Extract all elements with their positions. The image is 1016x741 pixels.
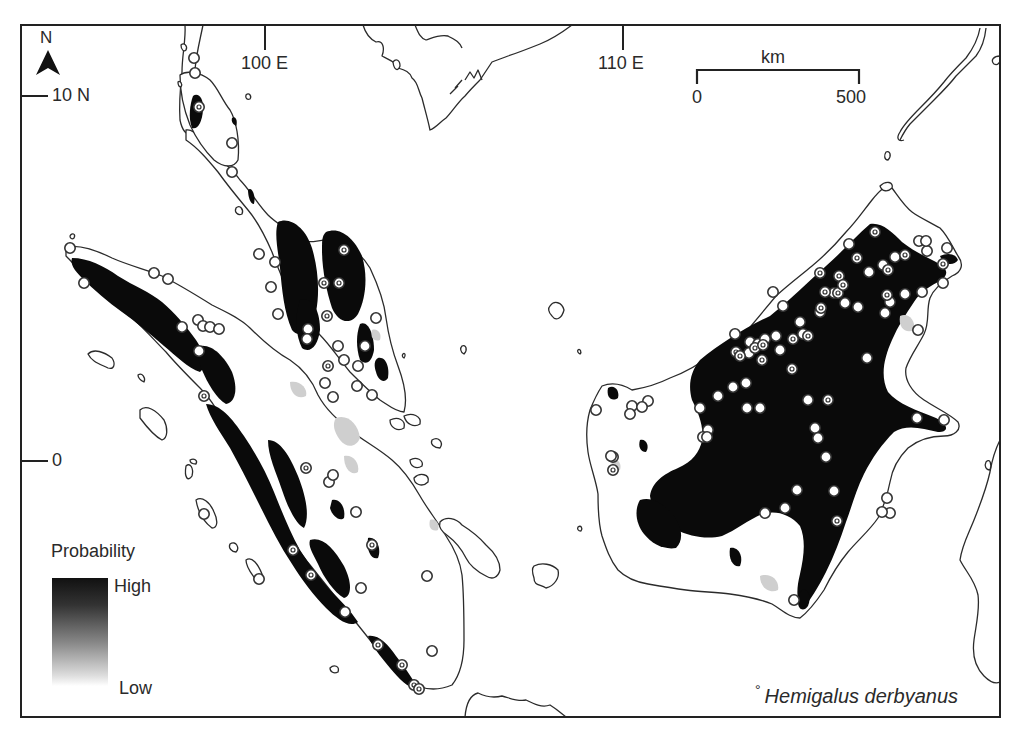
occurrence-point-ringed — [820, 287, 830, 297]
occurrence-point-ringed — [838, 280, 848, 290]
occurrence-point-ringed — [788, 334, 798, 344]
island-sipora — [229, 543, 237, 552]
occurrence-point — [921, 236, 931, 246]
occurrence-point — [254, 574, 264, 584]
occurrence-point — [821, 452, 831, 462]
distribution-map — [0, 0, 1016, 741]
island-banggi — [880, 182, 892, 190]
occurrence-point-ringed — [367, 540, 377, 550]
island-simeulue — [88, 351, 114, 368]
occurrence-point-ringed — [832, 516, 842, 526]
scale-bar-unit: km — [761, 47, 785, 68]
coastline-indochina — [363, 25, 572, 130]
occurrence-point — [351, 507, 361, 517]
occurrence-point — [65, 243, 75, 253]
occurrence-point — [778, 301, 788, 311]
occurrence-point — [913, 325, 923, 335]
coastline-mindanao-edge — [992, 56, 1000, 65]
coastline-sulawesi — [960, 440, 1000, 683]
occurrence-marker-icon: ° — [755, 682, 761, 698]
latitude-label-0: 0 — [52, 450, 62, 471]
occurrence-point — [741, 378, 751, 388]
island-w-thai-1 — [181, 44, 187, 51]
occurrence-point — [625, 409, 635, 419]
occurrence-point — [813, 433, 823, 443]
coastline-gulf-thailand — [415, 25, 462, 48]
island-w-thai-2 — [178, 81, 182, 87]
occurrence-point — [939, 415, 949, 425]
occurrence-point — [864, 267, 874, 277]
island-small-sea — [578, 526, 582, 531]
occurrence-point — [810, 423, 820, 433]
occurrence-point — [254, 249, 264, 259]
occurrence-point — [340, 607, 350, 617]
occurrence-point — [214, 324, 224, 334]
island-riau-1 — [390, 418, 404, 429]
scale-bar — [697, 69, 859, 84]
occurrence-point — [900, 289, 910, 299]
occurrence-point — [227, 167, 237, 177]
occurrence-point — [333, 341, 343, 351]
island-small-w1 — [138, 374, 145, 382]
island-riau-2 — [404, 414, 420, 425]
occurrence-point — [877, 507, 887, 517]
occurrence-point — [302, 334, 312, 344]
occurrence-point — [427, 646, 437, 656]
island-anambas — [461, 346, 466, 354]
occurrence-point-ringed — [608, 465, 618, 475]
occurrence-point — [771, 331, 781, 341]
occurrence-point — [755, 403, 765, 413]
occurrence-point — [328, 392, 338, 402]
occurrence-point — [270, 257, 280, 267]
occurrence-point-ringed — [288, 545, 298, 555]
occurrence-point-ringed — [319, 278, 329, 288]
occurrence-point — [273, 309, 283, 319]
occurrence-point-ringed — [870, 227, 880, 237]
occurrence-point-ringed — [735, 351, 745, 361]
occurrence-point — [320, 378, 330, 388]
occurrence-point — [862, 353, 872, 363]
island-tiny-2 — [578, 349, 581, 354]
occurrence-point-ringed — [323, 361, 333, 371]
occurrence-point-ringed — [194, 102, 204, 112]
occurrence-point — [728, 382, 738, 392]
occurrence-point — [768, 287, 778, 297]
occurrence-point-ringed — [757, 355, 767, 365]
occurrence-point — [266, 282, 276, 292]
island-nias — [140, 408, 167, 440]
occurrence-point-ringed — [900, 250, 910, 260]
legend-title: Probability — [51, 541, 135, 562]
island-small-ne — [885, 152, 890, 160]
occurrence-point — [227, 138, 237, 148]
north-label: N — [40, 28, 52, 48]
occurrence-point-ringed — [334, 278, 344, 288]
occurrence-point — [829, 486, 839, 496]
occurrence-point — [339, 355, 349, 365]
occurrence-point — [591, 405, 601, 415]
longitude-label-100e: 100 E — [241, 53, 288, 74]
island-weh — [70, 234, 75, 239]
occurrence-point — [371, 313, 381, 323]
occurrence-point-ringed — [199, 391, 209, 401]
occurrence-point-ringed — [803, 331, 813, 341]
island-belitung — [533, 564, 559, 588]
occurrence-point-ringed — [883, 265, 893, 275]
occurrence-point — [360, 341, 370, 351]
occurrence-point — [780, 503, 790, 513]
island-natuna — [549, 303, 564, 319]
legend-high-label: High — [114, 576, 151, 597]
occurrence-point — [695, 403, 705, 413]
occurrence-point-ringed — [306, 570, 316, 580]
north-arrow-icon — [36, 50, 60, 75]
occurrence-point — [303, 324, 313, 334]
occurrence-point-ringed — [815, 268, 825, 278]
occurrence-point — [882, 493, 892, 503]
landmass-thai-isthmus — [180, 72, 239, 166]
occurrence-point-ringed — [938, 259, 948, 269]
occurrence-point-ringed — [823, 395, 833, 405]
island-riau-3 — [410, 458, 422, 467]
occurrence-point — [637, 402, 647, 412]
occurrence-point — [789, 595, 799, 605]
island-small-w2 — [190, 459, 197, 464]
longitude-label-110e: 110 E — [598, 53, 644, 74]
